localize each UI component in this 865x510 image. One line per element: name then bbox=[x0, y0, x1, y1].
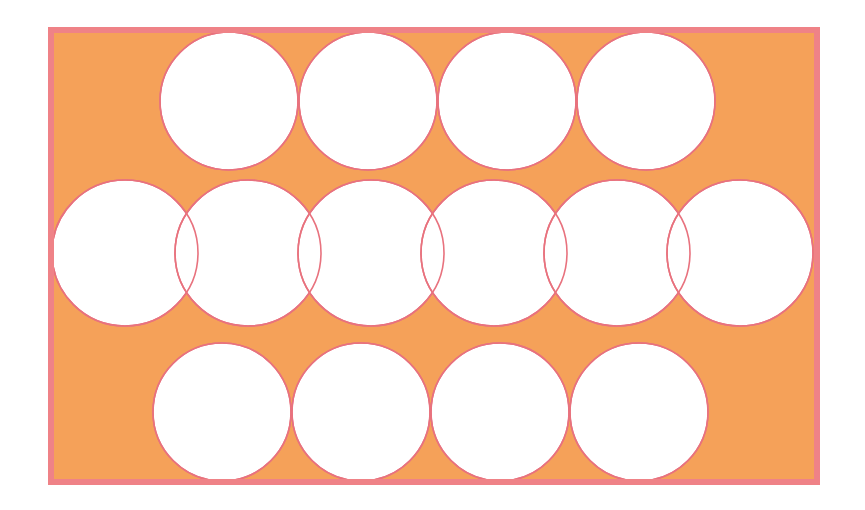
figure-canvas: Circle packing diagram Orange rectangle … bbox=[0, 0, 865, 510]
circles-layer bbox=[52, 32, 813, 481]
circle-packing-figure: Circle packing diagram Orange rectangle … bbox=[0, 0, 865, 510]
